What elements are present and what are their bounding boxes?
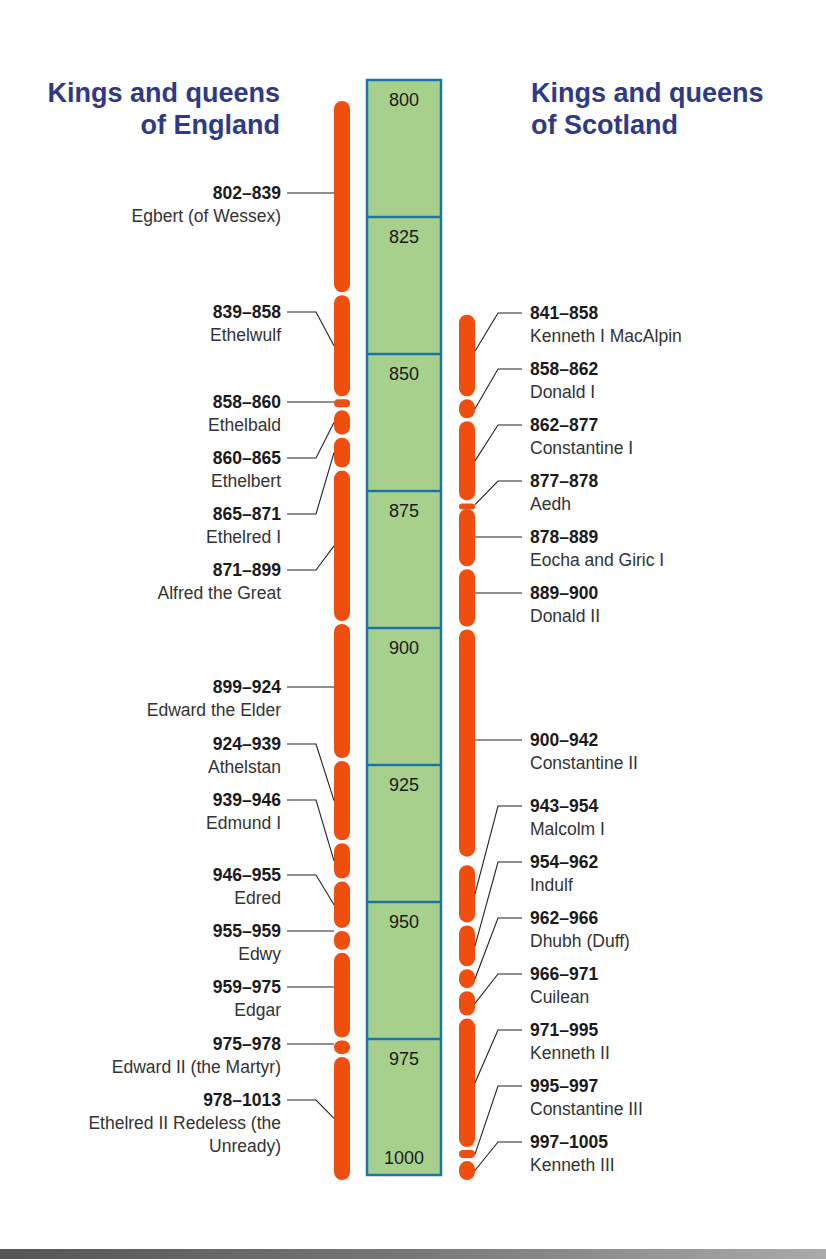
reign-label: 865–871Ethelred I xyxy=(206,503,281,549)
reign-label: 839–858Ethelwulf xyxy=(210,301,281,347)
reign-label: 900–942Constantine II xyxy=(530,729,638,775)
reign-label: 860–865Ethelbert xyxy=(211,447,281,493)
monarch-name: Eocha and Giric I xyxy=(530,549,664,572)
monarch-name: Malcolm I xyxy=(530,818,605,841)
reign-years: 839–858 xyxy=(210,301,281,324)
monarch-name: Alfred the Great xyxy=(157,582,281,605)
reign-label: 878–889Eocha and Giric I xyxy=(530,526,664,572)
monarch-name: Kenneth I MacAlpin xyxy=(530,325,682,348)
monarch-name: Edward the Elder xyxy=(147,699,281,722)
reign-label: 966–971Cuilean xyxy=(530,963,598,1009)
reign-label: 858–860Ethelbald xyxy=(208,391,281,437)
reign-years: 865–871 xyxy=(206,503,281,526)
reign-segment xyxy=(459,969,475,988)
reign-segment xyxy=(334,761,350,840)
scotland-reign-bar xyxy=(459,315,475,1180)
reign-segment xyxy=(334,624,350,758)
monarch-name: Ethelred II Redeless (the xyxy=(88,1112,281,1135)
monarch-name: Constantine II xyxy=(530,752,638,775)
monarch-name: Dhubh (Duff) xyxy=(530,930,630,953)
reign-label: 997–1005Kenneth III xyxy=(530,1131,615,1177)
reign-label: 954–962Indulf xyxy=(530,851,598,897)
monarch-name: Edward II (the Martyr) xyxy=(112,1056,281,1079)
reign-segment xyxy=(334,438,350,468)
reign-segment xyxy=(334,1057,350,1180)
monarch-name: Cuilean xyxy=(530,986,598,1009)
reign-label: 959–975Edgar xyxy=(213,976,281,1022)
reign-years: 954–962 xyxy=(530,851,598,874)
reign-label: 971–995Kenneth II xyxy=(530,1019,610,1065)
monarch-name: Edred xyxy=(213,887,281,910)
reign-segment xyxy=(459,1150,475,1158)
scale-tick-label: 1000 xyxy=(384,1148,424,1168)
reign-years: 889–900 xyxy=(530,582,600,605)
scale-tick-label: 950 xyxy=(389,912,419,932)
reign-years: 955–959 xyxy=(213,920,281,943)
monarch-name: Ethelred I xyxy=(206,526,281,549)
reign-segment xyxy=(459,630,475,857)
reign-label: 899–924Edward the Elder xyxy=(147,676,281,722)
reign-segment xyxy=(334,410,350,434)
reign-label: 978–1013Ethelred II Redeless (theUnready… xyxy=(88,1089,281,1158)
reign-segment xyxy=(334,931,350,950)
monarch-name: Athelstan xyxy=(208,756,281,779)
reign-segment xyxy=(459,1019,475,1148)
reign-label: 871–899Alfred the Great xyxy=(157,559,281,605)
monarch-name: Edwy xyxy=(213,943,281,966)
reign-years: 802–839 xyxy=(132,182,281,205)
monarch-name: Ethelwulf xyxy=(210,324,281,347)
scale-tick-label: 850 xyxy=(389,364,419,384)
reign-segment xyxy=(459,991,475,1015)
reign-label: 924–939Athelstan xyxy=(208,733,281,779)
reign-segment xyxy=(459,421,475,500)
reign-label: 862–877Constantine I xyxy=(530,414,633,460)
monarch-name: Unready) xyxy=(88,1135,281,1158)
reign-years: 962–966 xyxy=(530,907,630,930)
reign-segment xyxy=(334,1041,350,1054)
monarch-name: Aedh xyxy=(530,493,598,516)
scale-tick-label: 925 xyxy=(389,775,419,795)
reign-label: 841–858Kenneth I MacAlpin xyxy=(530,302,682,348)
reign-label: 995–997Constantine III xyxy=(530,1075,643,1121)
monarch-name: Constantine I xyxy=(530,437,633,460)
scale-tick-label: 875 xyxy=(389,501,419,521)
reign-years: 858–860 xyxy=(208,391,281,414)
monarch-name: Kenneth II xyxy=(530,1042,610,1065)
reign-segment xyxy=(459,315,475,397)
reign-years: 862–877 xyxy=(530,414,633,437)
reign-label: 877–878Aedh xyxy=(530,470,598,516)
reign-segment xyxy=(459,399,475,418)
reign-years: 860–865 xyxy=(211,447,281,470)
reign-segment xyxy=(459,1161,475,1180)
scale-tick-label: 825 xyxy=(389,227,419,247)
reign-years: 939–946 xyxy=(206,789,281,812)
monarch-name: Donald II xyxy=(530,605,600,628)
monarch-name: Kenneth III xyxy=(530,1154,615,1177)
reign-segment xyxy=(334,953,350,1038)
reign-years: 858–862 xyxy=(530,358,598,381)
england-reign-bar xyxy=(334,101,350,1180)
reign-years: 995–997 xyxy=(530,1075,643,1098)
reign-segment xyxy=(334,882,350,928)
monarch-name: Ethelbert xyxy=(211,470,281,493)
reign-label: 802–839Egbert (of Wessex) xyxy=(132,182,281,228)
reign-segment xyxy=(459,569,475,626)
reign-years: 841–858 xyxy=(530,302,682,325)
monarch-name: Edgar xyxy=(213,999,281,1022)
reign-label: 889–900Donald II xyxy=(530,582,600,628)
reign-label: 943–954Malcolm I xyxy=(530,795,605,841)
reign-years: 971–995 xyxy=(530,1019,610,1042)
reign-label: 975–978Edward II (the Martyr) xyxy=(112,1033,281,1079)
monarch-name: Constantine III xyxy=(530,1098,643,1121)
scale-tick-label: 800 xyxy=(389,90,419,110)
monarch-name: Donald I xyxy=(530,381,598,404)
monarch-name: Ethelbald xyxy=(208,414,281,437)
reign-segment xyxy=(334,471,350,621)
reign-segment xyxy=(459,509,475,566)
reign-segment xyxy=(334,295,350,396)
reign-years: 878–889 xyxy=(530,526,664,549)
reign-years: 877–878 xyxy=(530,470,598,493)
reign-label: 939–946Edmund I xyxy=(206,789,281,835)
reign-years: 966–971 xyxy=(530,963,598,986)
reign-years: 900–942 xyxy=(530,729,638,752)
